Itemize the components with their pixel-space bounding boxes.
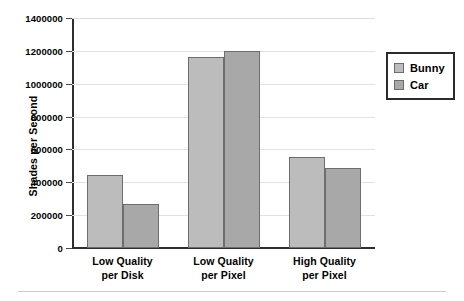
bar-chart: Shades per Second 0200000400000600000800… — [0, 0, 464, 301]
legend-swatch-icon-bunny — [394, 63, 404, 73]
y-tick-mark — [66, 51, 72, 52]
bar-bunny-0 — [87, 175, 123, 248]
y-tick-mark — [66, 18, 72, 19]
legend-swatch-icon-car — [394, 80, 404, 90]
legend-item-1: Car — [394, 76, 445, 93]
legend-label-bunny: Bunny — [410, 62, 445, 74]
legend-label-car: Car — [410, 79, 429, 91]
y-tick-label: 400000 — [31, 177, 63, 188]
y-tick-label: 1000000 — [25, 78, 63, 89]
bar-bunny-2 — [289, 157, 325, 248]
y-tick-label: 0 — [58, 243, 63, 254]
bottom-divider — [18, 291, 446, 292]
bar-car-1 — [224, 51, 260, 248]
plot-area: 0200000400000600000800000100000012000001… — [72, 18, 375, 248]
bar-car-2 — [325, 168, 361, 248]
y-tick-label: 1200000 — [25, 45, 63, 56]
legend: Bunny Car — [386, 52, 455, 100]
y-tick-mark — [66, 248, 72, 249]
x-axis-label-1: Low Qualityper Pixel — [173, 254, 274, 282]
y-tick-mark — [66, 117, 72, 118]
bar-car-0 — [123, 204, 159, 248]
y-tick-label: 200000 — [31, 210, 63, 221]
x-axis-label-2: High Qualityper Pixel — [274, 254, 375, 282]
y-tick-mark — [66, 84, 72, 85]
y-tick-label: 600000 — [31, 144, 63, 155]
x-axis-label-0: Low Qualityper Disk — [72, 254, 173, 282]
gridline — [72, 18, 375, 19]
y-tick-mark — [66, 182, 72, 183]
y-tick-mark — [66, 149, 72, 150]
legend-item-0: Bunny — [394, 59, 445, 76]
y-tick-mark — [66, 215, 72, 216]
y-tick-label: 800000 — [31, 111, 63, 122]
bar-bunny-1 — [188, 57, 224, 248]
y-tick-label: 1400000 — [25, 13, 63, 24]
